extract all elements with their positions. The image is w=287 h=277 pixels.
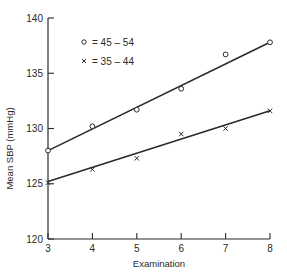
circle-marker bbox=[179, 86, 184, 91]
y-tick-label: 135 bbox=[26, 68, 43, 79]
fit-lines bbox=[48, 42, 270, 181]
regression-line bbox=[48, 42, 270, 150]
legend: = 45 – 54= 35 – 44 bbox=[82, 37, 135, 67]
data-points bbox=[46, 40, 273, 185]
legend-label-35-44: = 35 – 44 bbox=[92, 56, 134, 67]
legend-circle-icon bbox=[82, 40, 86, 44]
circle-marker bbox=[46, 148, 51, 153]
cross-marker bbox=[135, 156, 139, 160]
cross-marker bbox=[179, 132, 183, 136]
y-tick-label: 125 bbox=[26, 178, 43, 189]
x-tick-label: 8 bbox=[267, 243, 273, 254]
legend-cross-icon bbox=[82, 59, 86, 63]
axes: 120125130135140345678ExaminationMean SBP… bbox=[4, 13, 273, 270]
x-tick-label: 5 bbox=[134, 243, 140, 254]
x-tick-label: 4 bbox=[90, 243, 96, 254]
x-tick-label: 3 bbox=[45, 243, 51, 254]
y-tick-label: 140 bbox=[26, 13, 43, 24]
chart: 120125130135140345678ExaminationMean SBP… bbox=[0, 0, 287, 277]
y-axis-title: Mean SBP (mmHg) bbox=[4, 107, 15, 189]
y-tick-label: 130 bbox=[26, 123, 43, 134]
x-tick-label: 6 bbox=[178, 243, 184, 254]
circle-marker bbox=[268, 40, 273, 45]
circle-marker bbox=[90, 124, 95, 129]
cross-marker bbox=[223, 126, 227, 130]
y-tick-label: 120 bbox=[26, 234, 43, 245]
legend-label-45-54: = 45 – 54 bbox=[92, 37, 134, 48]
x-axis-title: Examination bbox=[133, 258, 185, 269]
regression-line bbox=[48, 111, 270, 182]
x-tick-label: 7 bbox=[223, 243, 229, 254]
circle-marker bbox=[223, 52, 228, 57]
circle-marker bbox=[134, 107, 139, 112]
